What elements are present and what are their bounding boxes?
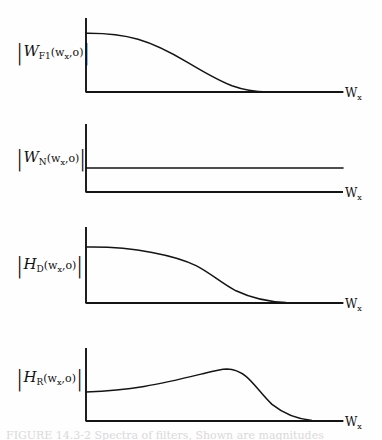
figure-caption-partial: FIGURE 14.3-2 Spectra of filters, Shown … [6,431,376,440]
panel-wf1-xlabel: Wx [345,86,362,102]
symbol-args: (wx,o) [47,152,80,165]
symbol-args: (wx,o) [43,372,76,385]
symbol-script: H [23,255,36,273]
panel-wf1-ylabel: |WF1(wx,o)| [16,42,91,64]
abs-bar-left: | [17,148,22,170]
symbol-script: W [23,148,38,166]
panel-wn: |WN(wx,o)| Wx [0,110,382,215]
abs-bar-left: | [17,42,22,64]
symbol-args: (wx,o) [51,46,84,59]
curve-hr [86,369,343,421]
curve-hd [86,247,343,303]
symbol-subscript: N [39,157,47,167]
panel-hr: |HR(wx,o)| Wx [0,325,382,440]
abs-bar-right: | [80,148,85,170]
abs-bar-right: | [85,42,90,64]
panel-hd-xlabel: Wx [345,297,362,313]
curve-wf1 [86,33,343,92]
panel-hd: |HD(wx,o)| Wx [0,215,382,325]
panel-hd-ylabel: |HD(wx,o)| [16,255,84,277]
symbol-subscript: F1 [39,51,51,61]
symbol-script: H [23,368,36,386]
panel-hr-ylabel: |HR(wx,o)| [16,368,83,390]
abs-bar-right: | [78,255,83,277]
figure-container: |WF1(wx,o)| Wx |WN(wx,o)| Wx |HD(wx,o)| … [0,0,382,440]
abs-bar-left: | [17,255,22,277]
panel-wn-ylabel: |WN(wx,o)| [16,148,87,170]
abs-bar-left: | [17,368,22,390]
abs-bar-right: | [77,368,82,390]
panel-hr-xlabel: Wx [345,415,362,431]
symbol-args: (wx,o) [44,259,77,272]
symbol-script: W [23,42,38,60]
symbol-subscript: D [37,264,44,274]
panel-wn-xlabel: Wx [345,186,362,202]
panel-wf1: |WF1(wx,o)| Wx [0,0,382,110]
